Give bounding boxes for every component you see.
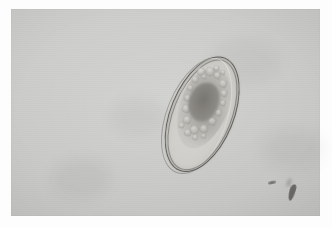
micrograph-viewport xyxy=(0,0,332,228)
